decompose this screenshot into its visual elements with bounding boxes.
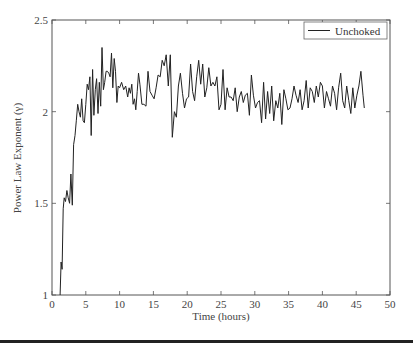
x-tick-label: 40 [317, 298, 329, 310]
y-tick-label: 2.5 [34, 14, 48, 26]
x-tick-label: 10 [114, 298, 126, 310]
legend: Unchoked [304, 22, 387, 39]
x-tick-label: 0 [49, 298, 55, 310]
x-tick-label: 35 [283, 298, 295, 310]
y-axis-ticks: 11.522.5 [34, 14, 390, 301]
y-axis-title: Power Law Exponent (γ) [11, 103, 24, 214]
x-tick-label: 50 [385, 298, 397, 310]
x-tick-label: 15 [148, 298, 160, 310]
x-tick-label: 30 [249, 298, 261, 310]
x-tick-label: 25 [216, 298, 228, 310]
x-tick-label: 5 [83, 298, 89, 310]
chart: 05101520253035404550 11.522.5 Time (hour… [0, 0, 413, 345]
x-tick-label: 20 [182, 298, 194, 310]
series-line-unchoked [60, 48, 364, 296]
plot-area: 05101520253035404550 11.522.5 [34, 14, 396, 310]
legend-label-unchoked: Unchoked [335, 25, 381, 37]
x-tick-label: 45 [351, 298, 363, 310]
y-tick-label: 1 [43, 289, 49, 301]
y-tick-label: 1.5 [34, 197, 48, 209]
x-axis-title: Time (hours) [192, 310, 250, 323]
y-tick-label: 2 [43, 106, 49, 118]
bottom-rule [0, 340, 413, 343]
